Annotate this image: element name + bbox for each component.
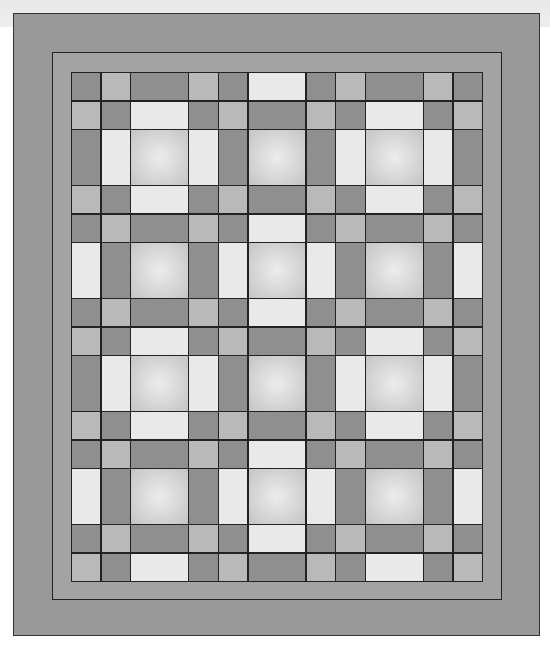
quilt-patch-dark-r6-c2 — [131, 299, 187, 326]
quilt-patch-dark-r6-c10 — [454, 299, 482, 326]
quilt-patch-dark-r4-c10 — [454, 215, 482, 242]
quilt-patch-medium-r0-c1 — [102, 73, 130, 100]
quilt-patch-dark-r12-c2 — [131, 525, 187, 552]
quilt-patch-light-r8-c3 — [189, 356, 217, 410]
quilt-patch-light-r11-c4 — [219, 469, 247, 523]
quilt-patch-medium-r1-c6 — [307, 102, 335, 129]
quilt-patch-medium-r4-c7 — [336, 215, 364, 242]
quilt-patch-dark-r8-c0 — [72, 356, 100, 410]
quilt-patch-dark-r10-c6 — [307, 441, 335, 468]
quilt-patch-dark-r5-c3 — [189, 243, 217, 297]
quilt-patch-dark-r9-c1 — [102, 412, 130, 439]
quilt-patch-dark-r0-c0 — [72, 73, 100, 100]
quilt-patch-dark-r4-c4 — [219, 215, 247, 242]
quilt-patch-dark-r0-c8 — [366, 73, 422, 100]
quilt-patch-medium-r6-c7 — [336, 299, 364, 326]
quilt-patch-light-r9-c8 — [366, 412, 422, 439]
quilt-patch-light-r2-c3 — [189, 130, 217, 184]
quilt-patch-light-r4-c5 — [249, 215, 305, 242]
quilt-patch-dark-r7-c5 — [249, 328, 305, 355]
quilt-patch-medium-r9-c0 — [72, 412, 100, 439]
quilt-patch-medium-r3-c10 — [454, 186, 482, 213]
quilt-patch-dark-r3-c5 — [249, 186, 305, 213]
quilt-patch-medium-r7-c6 — [307, 328, 335, 355]
quilt-patch-dark-r6-c4 — [219, 299, 247, 326]
quilt-patch-dark-r8-c4 — [219, 356, 247, 410]
quilt-patch-light-r2-c7 — [336, 130, 364, 184]
quilt-patch-center-r11-c5 — [249, 469, 305, 523]
quilt-patch-center-r2-c8 — [366, 130, 422, 184]
quilt-patch-light-r5-c0 — [72, 243, 100, 297]
quilt-patch-center-r11-c8 — [366, 469, 422, 523]
quilt-patch-dark-r4-c0 — [72, 215, 100, 242]
quilt-patch-dark-r1-c5 — [249, 102, 305, 129]
quilt-patch-light-r9-c2 — [131, 412, 187, 439]
quilt-patch-dark-r12-c8 — [366, 525, 422, 552]
quilt-patch-dark-r10-c0 — [72, 441, 100, 468]
quilt-patch-light-r8-c9 — [424, 356, 452, 410]
quilt-patch-dark-r3-c1 — [102, 186, 130, 213]
quilt-patch-medium-r6-c1 — [102, 299, 130, 326]
quilt-patch-light-r1-c8 — [366, 102, 422, 129]
quilt-patch-medium-r10-c9 — [424, 441, 452, 468]
quilt-patch-dark-r11-c7 — [336, 469, 364, 523]
quilt-patch-dark-r4-c2 — [131, 215, 187, 242]
quilt-patch-light-r6-c5 — [249, 299, 305, 326]
quilt-patch-light-r5-c4 — [219, 243, 247, 297]
quilt-patch-medium-r12-c1 — [102, 525, 130, 552]
quilt-patch-dark-r6-c6 — [307, 299, 335, 326]
quilt-patch-dark-r9-c9 — [424, 412, 452, 439]
quilt-patch-light-r0-c5 — [249, 73, 305, 100]
quilt-patch-dark-r0-c6 — [307, 73, 335, 100]
quilt-patch-medium-r1-c4 — [219, 102, 247, 129]
quilt-patch-center-r11-c2 — [131, 469, 187, 523]
quilt-patch-grid — [71, 72, 483, 582]
quilt-patch-medium-r1-c10 — [454, 102, 482, 129]
quilt-patch-medium-r7-c0 — [72, 328, 100, 355]
quilt-patch-dark-r2-c6 — [307, 130, 335, 184]
quilt-patch-light-r3-c2 — [131, 186, 187, 213]
quilt-patch-dark-r9-c5 — [249, 412, 305, 439]
quilt-patch-dark-r7-c9 — [424, 328, 452, 355]
quilt-patch-dark-r8-c10 — [454, 356, 482, 410]
quilt-patch-center-r8-c2 — [131, 356, 187, 410]
quilt-patch-medium-r6-c9 — [424, 299, 452, 326]
quilt-patch-medium-r13-c6 — [307, 554, 335, 581]
quilt-patch-dark-r9-c7 — [336, 412, 364, 439]
quilt-patch-dark-r5-c9 — [424, 243, 452, 297]
quilt-patch-medium-r12-c7 — [336, 525, 364, 552]
quilt-patch-dark-r12-c6 — [307, 525, 335, 552]
quilt-patch-dark-r5-c1 — [102, 243, 130, 297]
quilt-patch-light-r2-c1 — [102, 130, 130, 184]
quilt-patch-dark-r7-c7 — [336, 328, 364, 355]
quilt-patch-dark-r10-c2 — [131, 441, 187, 468]
quilt-patch-dark-r10-c8 — [366, 441, 422, 468]
quilt-patch-medium-r7-c10 — [454, 328, 482, 355]
quilt-patch-center-r8-c8 — [366, 356, 422, 410]
quilt-patch-dark-r0-c10 — [454, 73, 482, 100]
quilt-patch-dark-r12-c4 — [219, 525, 247, 552]
quilt-patch-medium-r3-c0 — [72, 186, 100, 213]
quilt-patch-dark-r13-c7 — [336, 554, 364, 581]
quilt-patch-medium-r9-c6 — [307, 412, 335, 439]
quilt-patch-medium-r10-c1 — [102, 441, 130, 468]
quilt-patch-light-r2-c9 — [424, 130, 452, 184]
quilt-patch-center-r2-c2 — [131, 130, 187, 184]
quilt-patch-dark-r9-c3 — [189, 412, 217, 439]
quilt-patch-light-r7-c2 — [131, 328, 187, 355]
quilt-patch-medium-r1-c0 — [72, 102, 100, 129]
quilt-patch-light-r5-c10 — [454, 243, 482, 297]
quilt-patch-center-r5-c2 — [131, 243, 187, 297]
quilt-patch-dark-r0-c4 — [219, 73, 247, 100]
quilt-patch-medium-r7-c4 — [219, 328, 247, 355]
quilt-patch-light-r11-c0 — [72, 469, 100, 523]
quilt-patch-dark-r6-c0 — [72, 299, 100, 326]
quilt-patch-light-r11-c10 — [454, 469, 482, 523]
quilt-patch-medium-r9-c4 — [219, 412, 247, 439]
quilt-patch-dark-r3-c3 — [189, 186, 217, 213]
quilt-patch-dark-r1-c1 — [102, 102, 130, 129]
quilt-patch-medium-r4-c9 — [424, 215, 452, 242]
quilt-patch-dark-r12-c10 — [454, 525, 482, 552]
quilt-patch-light-r8-c7 — [336, 356, 364, 410]
quilt-patch-medium-r13-c10 — [454, 554, 482, 581]
